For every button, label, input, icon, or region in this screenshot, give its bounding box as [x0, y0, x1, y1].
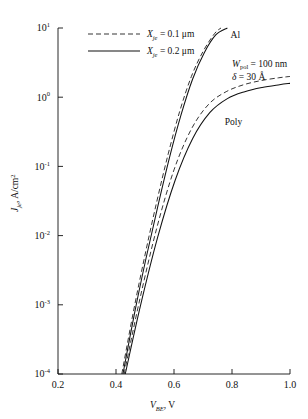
legend-label: Xje = 0.1 μm [146, 29, 195, 41]
y-tick-label: 10-1 [35, 160, 50, 172]
svg-text:VBE, V: VBE, V [150, 400, 175, 412]
annotation-group: AlPolyWpol = 100 nmδ = 30 Å [225, 30, 288, 127]
x-tick-label: 0.4 [110, 379, 123, 390]
x-axis-title-sub: BE [156, 405, 164, 412]
x-tick-label: 0.2 [52, 379, 65, 390]
wpol-line: Wpol = 100 nm [232, 59, 288, 71]
data-curve [123, 28, 227, 374]
figure-container: 10110010-110-210-310-4 0.20.40.60.81.0 A… [0, 0, 308, 419]
y-tick-label: 101 [37, 21, 50, 33]
x-axis-title-tail: , V [164, 400, 176, 410]
legend-label: Xje = 0.2 μm [146, 46, 195, 58]
y-tick-label: 10-2 [35, 229, 50, 241]
y-tick-label: 10-3 [35, 298, 50, 310]
y-axis-title-sup: 2 [9, 174, 16, 177]
delta-line: δ = 30 Å [232, 71, 265, 82]
y-axis-title-tail: , A/cm [10, 177, 20, 203]
poly-label: Poly [225, 117, 243, 127]
y-axis-title: Jje, A/cm2 [9, 174, 22, 212]
legend-group: Xje = 0.1 μmXje = 0.2 μm [88, 29, 195, 58]
data-curve [125, 83, 290, 374]
y-tick-label: 100 [37, 90, 50, 102]
x-axis-ticks: 0.20.40.60.81.0 [52, 369, 297, 390]
x-tick-label: 0.8 [226, 379, 239, 390]
x-axis-title: VBE, V [150, 400, 175, 412]
log-iv-chart: 10110010-110-210-310-4 0.20.40.60.81.0 A… [0, 0, 308, 419]
y-tick-label: 10-4 [35, 367, 51, 379]
svg-text:Jje, A/cm2: Jje, A/cm2 [9, 174, 22, 212]
x-tick-label: 0.6 [168, 379, 181, 390]
x-tick-label: 1.0 [284, 379, 297, 390]
data-curve [124, 76, 290, 374]
y-axis-ticks: 10110010-110-210-310-4 [35, 21, 63, 379]
al-label: Al [231, 30, 241, 40]
